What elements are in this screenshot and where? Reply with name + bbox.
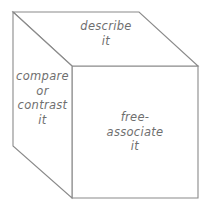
cube-front-face xyxy=(72,66,198,198)
cube-wireframe xyxy=(0,0,211,211)
cube-diagram: describe it compare or contrast it free-… xyxy=(0,0,211,211)
